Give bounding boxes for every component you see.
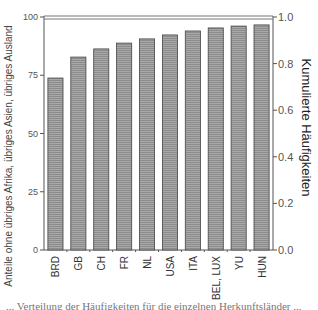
axes: 02550751000.00.20.40.60.81.0 xyxy=(23,11,293,256)
category-label: ITA xyxy=(188,256,199,271)
footer-caption: ... Verteilung der Häufigkeiten für die … xyxy=(6,300,316,310)
y2-axis-label: Kumulierte Häufigkeiten xyxy=(299,58,314,196)
y2-tick-label: 0.8 xyxy=(278,58,293,70)
y-tick-label: 25 xyxy=(28,187,38,197)
bar-bel-lux xyxy=(208,28,223,250)
bar-fr xyxy=(117,43,132,250)
bar-gb xyxy=(71,57,86,250)
bar-yu xyxy=(231,26,246,250)
category-label: FR xyxy=(119,256,130,269)
category-label: HUN xyxy=(257,256,268,278)
y2-tick-label: 1.0 xyxy=(278,11,293,23)
bar-ita xyxy=(185,31,200,250)
category-label: USA xyxy=(165,256,176,277)
bar-ch xyxy=(94,49,109,250)
y-tick-label: 50 xyxy=(28,129,38,139)
y-tick-label: 100 xyxy=(23,12,38,22)
y-axis-label: Anteile ohne übriges Afrika, übriges Asi… xyxy=(3,25,14,286)
category-label: NL xyxy=(142,256,153,269)
bar-usa xyxy=(162,35,177,250)
y2-tick-label: 0.0 xyxy=(278,244,293,256)
category-label: CH xyxy=(96,256,107,270)
category-label: YU xyxy=(234,256,245,270)
y-tick-label: 75 xyxy=(28,70,38,80)
cumulative-bar-chart: 02550751000.00.20.40.60.81.0 Anteile ohn… xyxy=(0,0,318,300)
category-label: BEL, LUX xyxy=(211,256,222,300)
y2-tick-label: 0.2 xyxy=(278,197,293,209)
category-label: BRD xyxy=(50,256,61,277)
bar-hun xyxy=(254,25,269,250)
y2-tick-label: 0.6 xyxy=(278,104,293,116)
bar-nl xyxy=(139,39,154,250)
y2-tick-label: 0.4 xyxy=(278,151,293,163)
bar-brd xyxy=(48,78,63,250)
bars xyxy=(48,25,269,250)
y-tick-label: 0 xyxy=(33,245,38,255)
category-label: GB xyxy=(73,256,84,271)
